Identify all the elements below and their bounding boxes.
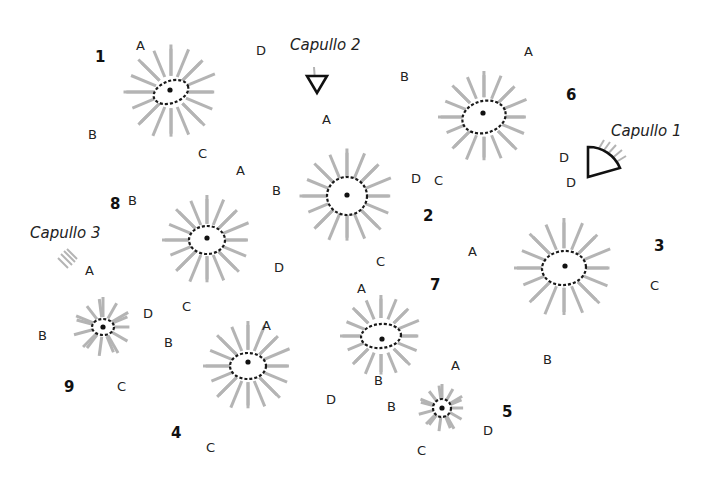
axis-letter-c: C	[182, 299, 191, 314]
ray-floret	[582, 249, 610, 261]
ray-floret	[360, 164, 379, 183]
ray-floret	[498, 131, 514, 147]
ray-floret	[99, 299, 101, 317]
axis-letter-b: B	[387, 399, 396, 414]
center-dot-icon	[379, 336, 384, 341]
ray-floret	[394, 349, 408, 363]
bud-label-capullo-2: Capullo 2	[290, 36, 361, 54]
flower-head-3: 3ACB	[468, 218, 664, 367]
axis-letter-d: D	[274, 260, 284, 275]
ray-floret	[259, 377, 277, 395]
ray-floret	[132, 98, 156, 108]
axis-letter-b: B	[38, 328, 47, 343]
head-number: 6	[566, 86, 576, 104]
ray-floret	[572, 286, 583, 313]
ray-floret	[186, 98, 212, 109]
disc-outline	[230, 353, 266, 379]
axis-letter-b: B	[128, 193, 137, 208]
head-number: 4	[171, 424, 181, 442]
disc-outline	[360, 322, 402, 349]
axis-letter-b: B	[164, 335, 173, 350]
triangle-bud-icon	[307, 76, 327, 93]
ray-floret	[355, 310, 368, 323]
axis-letter-d: D	[143, 306, 153, 321]
center-dot-icon	[562, 263, 567, 268]
ray-floret	[502, 99, 526, 109]
ray-floret	[354, 213, 365, 239]
ray-floret	[398, 343, 417, 351]
bud-capullo-1: Capullo 1 D	[566, 122, 682, 190]
axis-letter-a: A	[357, 281, 366, 296]
ray-floret	[522, 251, 546, 261]
ray-floret	[545, 286, 557, 314]
flower-heads-diagram: 1ADBC6ABDC2ABDC8ABDC3ACB9ABDC4ABDC7AB5AB…	[0, 0, 710, 483]
ray-floret	[177, 49, 188, 77]
ray-floret	[446, 389, 453, 401]
ray-floret	[231, 381, 242, 408]
axis-letter-b: B	[88, 127, 97, 142]
flower-head-2: 2ABDC	[272, 112, 433, 269]
center-dot-icon	[100, 324, 105, 329]
ray-floret	[530, 282, 550, 302]
axis-letter-c: C	[117, 379, 126, 394]
ray-floret	[394, 309, 409, 324]
ray-floret	[366, 300, 374, 319]
ray-floret	[439, 416, 441, 431]
ray-floret	[222, 223, 249, 234]
ray-floret	[502, 125, 524, 134]
ray-floret	[210, 350, 233, 359]
ray-floret	[466, 135, 476, 159]
flower-head-5: 5ABDC	[387, 358, 512, 458]
ray-floret	[154, 51, 165, 77]
ray-floret	[353, 349, 368, 364]
ray-floret	[533, 237, 550, 254]
ray-floret	[307, 179, 330, 189]
ray-floret	[141, 62, 159, 80]
ray-floret	[452, 131, 470, 149]
axis-letter-a: A	[524, 44, 533, 59]
ray-floret	[186, 74, 215, 86]
flower-head-4: 4ABDC	[164, 318, 336, 455]
ray-floret	[467, 77, 476, 99]
bud-letter-d: D	[566, 175, 576, 190]
axis-letter-b: B	[272, 183, 281, 198]
ray-floret	[179, 212, 196, 229]
sector-bud-icon	[588, 147, 620, 177]
ray-floret	[398, 320, 419, 329]
ray-floret	[259, 336, 277, 354]
ray-floret	[177, 107, 188, 135]
center-dot-icon	[344, 192, 349, 197]
ray-floret	[170, 246, 192, 255]
center-dot-icon	[204, 235, 209, 240]
axis-letter-d: D	[559, 150, 569, 165]
ray-floret	[182, 103, 201, 122]
axis-letter-c: C	[650, 278, 659, 293]
axis-letter-c: C	[417, 443, 426, 458]
axis-letter-b: B	[400, 69, 409, 84]
ray-floret	[365, 353, 374, 374]
axis-letter-b: B	[543, 352, 552, 367]
axis-letter-a: A	[85, 263, 94, 278]
ray-floret	[582, 276, 607, 286]
ray-floret	[578, 235, 597, 254]
ray-floret	[263, 349, 290, 360]
ray-floret	[445, 101, 465, 109]
ray-floret	[498, 86, 515, 103]
ray-floret	[329, 213, 340, 240]
ray-floret	[449, 412, 462, 419]
ray-floret	[99, 337, 101, 356]
ray-floret	[364, 178, 391, 189]
ray-floret	[330, 155, 340, 180]
head-number: 5	[502, 403, 512, 421]
ray-floret	[354, 153, 365, 179]
axis-letter-d: D	[256, 43, 266, 58]
ray-floret	[232, 327, 242, 351]
ray-floret	[176, 251, 195, 270]
flower-head-6: 6ABDC	[400, 44, 576, 188]
ray-floret	[388, 299, 396, 319]
ray-floret	[388, 353, 396, 373]
head-number: 9	[64, 378, 74, 396]
head-number: 7	[430, 276, 440, 294]
ray-floret	[263, 372, 287, 382]
head-number: 8	[110, 195, 120, 213]
